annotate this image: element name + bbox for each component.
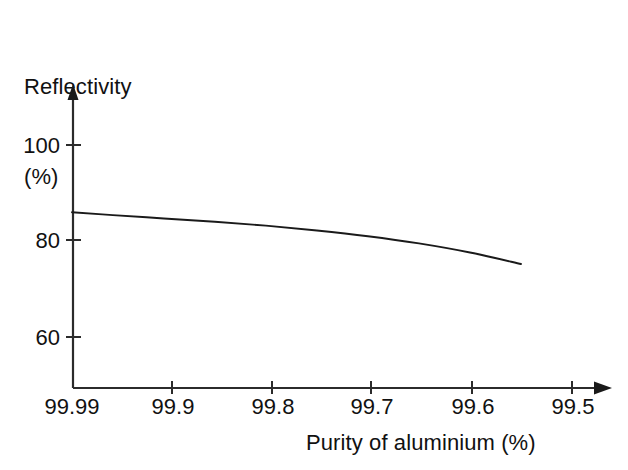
y-tick-label-60: 60 [4,325,60,351]
chart-figure: Reflectivity (%) 100 80 60 99.99 99.9 99… [0,0,628,470]
x-tick-label-99-6: 99.6 [418,394,528,420]
x-axis-arrowhead-icon [594,382,612,395]
y-axis [66,84,81,388]
x-tick-label-99-5: 99.5 [518,394,628,420]
y-axis-arrowhead-icon [68,84,79,100]
x-tick-label-99-9: 99.9 [118,394,228,420]
x-tick-label-99-7: 99.7 [317,394,427,420]
y-tick-label-100: 100 [4,133,60,159]
reflectivity-curve [72,212,521,264]
x-tick-label-99-8: 99.8 [218,394,328,420]
x-tick-label-99-99: 99.99 [17,394,127,420]
x-axis [73,381,612,395]
x-axis-title: Purity of aluminium (%) [306,428,536,458]
y-tick-label-80: 80 [4,228,60,254]
